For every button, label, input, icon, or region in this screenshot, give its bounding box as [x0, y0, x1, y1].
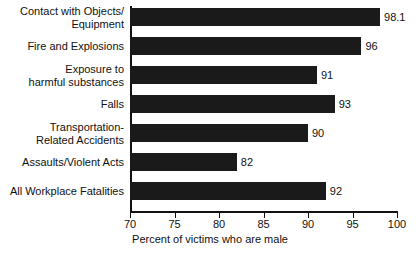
bar-value-label: 92 [330, 182, 342, 200]
bar [130, 66, 317, 84]
category-label: Contact with Objects/ Equipment [0, 5, 124, 30]
bar-row: Exposure to harmful substances91 [0, 66, 420, 84]
x-tick-label: 100 [379, 218, 415, 231]
bar-value-label: 98.1 [384, 8, 405, 26]
bar [130, 153, 237, 171]
bar-row: Falls93 [0, 95, 420, 113]
bar-row: Contact with Objects/ Equipment98.1 [0, 8, 420, 26]
category-label: Transportation- Related Accidents [0, 121, 124, 146]
bar-row: All Workplace Fatalities92 [0, 182, 420, 200]
bar [130, 8, 380, 26]
bar-row: Assaults/Violent Acts82 [0, 153, 420, 171]
bar-chart: Contact with Objects/ Equipment98.1Fire … [0, 0, 420, 254]
bar [130, 124, 308, 142]
bar [130, 95, 335, 113]
x-axis-title: Percent of victims who are male [0, 233, 420, 245]
x-tick-label: 90 [290, 218, 326, 231]
x-tick-label: 80 [201, 218, 237, 231]
x-tick-label: 95 [335, 218, 371, 231]
x-tick-label: 85 [246, 218, 282, 231]
category-label: Fire and Explosions [0, 40, 124, 53]
bar-value-label: 93 [339, 95, 351, 113]
bar-value-label: 91 [321, 66, 333, 84]
category-label: All Workplace Fatalities [0, 185, 124, 198]
x-tick-label: 70 [112, 218, 148, 231]
category-label: Assaults/Violent Acts [0, 156, 124, 169]
bar [130, 37, 361, 55]
bar-row: Transportation- Related Accidents90 [0, 124, 420, 142]
bar-value-label: 90 [312, 124, 324, 142]
x-tick-label: 75 [157, 218, 193, 231]
bar [130, 182, 326, 200]
category-label: Falls [0, 98, 124, 111]
bar-value-label: 82 [241, 153, 253, 171]
bar-value-label: 96 [365, 37, 377, 55]
bar-row: Fire and Explosions96 [0, 37, 420, 55]
category-label: Exposure to harmful substances [0, 63, 124, 88]
